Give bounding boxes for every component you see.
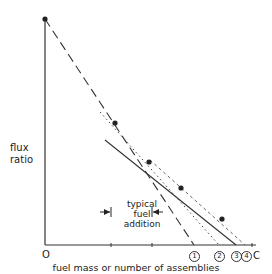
y-axis-label: flux ratio bbox=[10, 142, 33, 166]
annotation-line1: typical bbox=[120, 199, 164, 209]
data-point bbox=[42, 16, 47, 21]
data-point bbox=[219, 216, 224, 221]
marker-4: 4 bbox=[241, 250, 252, 262]
fuel-addition-annotation: typical fuel addition bbox=[120, 199, 164, 229]
data-point bbox=[112, 120, 117, 125]
x-axis-label: fuel mass or number of assemblies bbox=[0, 263, 272, 273]
extrapolation-line-4 bbox=[150, 160, 245, 245]
annotation-line2: fuel bbox=[120, 209, 164, 219]
critical-label: C bbox=[253, 250, 260, 261]
y-axis-label-line2: ratio bbox=[10, 154, 33, 166]
fuel-addition-arrow-left bbox=[100, 207, 111, 217]
diagram-canvas bbox=[0, 0, 272, 274]
y-axis-label-line1: flux bbox=[10, 142, 33, 154]
inverse-multiplication-diagram: flux ratio O typical fuel addition 1 2 3… bbox=[0, 0, 272, 274]
data-point bbox=[178, 185, 183, 190]
extrapolation-line-3 bbox=[105, 140, 236, 245]
marker-2: 2 bbox=[214, 250, 225, 262]
annotation-line3: addition bbox=[120, 219, 164, 229]
data-point bbox=[146, 159, 151, 164]
marker-1: 1 bbox=[189, 250, 200, 262]
origin-label: O bbox=[42, 250, 50, 260]
